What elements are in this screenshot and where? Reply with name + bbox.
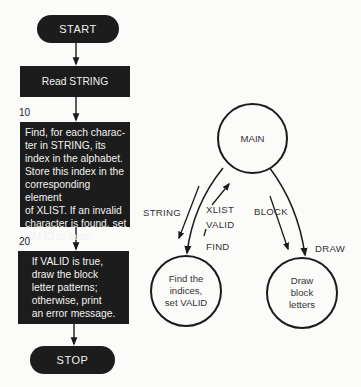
- find-indices-text: Find, for each charac- ter in STRING, it…: [25, 126, 128, 243]
- find-indices-step: Find, for each charac- ter in STRING, it…: [20, 122, 130, 227]
- draw-module-label: Draw block letters: [289, 275, 315, 311]
- read-string-label: Read STRING: [42, 75, 108, 88]
- find-module: Find the indices, set VALID: [150, 255, 222, 327]
- find-module-label: Find the indices, set VALID: [165, 273, 207, 309]
- draw-or-error-step: If VALID is true, draw the block letter …: [18, 251, 129, 324]
- valid-flow-label: VALID: [206, 219, 235, 230]
- draw-or-error-text: If VALID is true, draw the block letter …: [32, 255, 116, 320]
- find-call-label: FIND: [206, 241, 230, 252]
- diagram-canvas: START Read STRING 10 Find, for each char…: [0, 0, 361, 387]
- main-module-label: MAIN: [241, 133, 265, 145]
- xlist-flow-label: XLIST: [206, 204, 234, 215]
- stop-terminal: STOP: [30, 346, 115, 374]
- step-number-20: 20: [19, 236, 30, 247]
- start-label: START: [59, 23, 97, 35]
- read-string-step: Read STRING: [20, 66, 130, 97]
- step-number-10: 10: [19, 107, 30, 118]
- draw-call-label: DRAW: [315, 243, 345, 254]
- string-flow-label: STRING: [143, 207, 181, 218]
- block-flow-label: BLOCK: [254, 206, 288, 217]
- main-module: MAIN: [217, 103, 288, 174]
- draw-module: Draw block letters: [266, 257, 338, 329]
- stop-label: STOP: [57, 354, 89, 366]
- start-terminal: START: [37, 15, 119, 43]
